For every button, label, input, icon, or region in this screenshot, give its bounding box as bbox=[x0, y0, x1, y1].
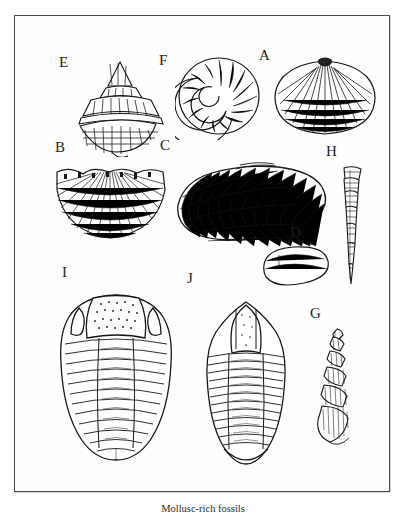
specimen-trilobite-narrow bbox=[198, 299, 294, 467]
specimen-label-I: I bbox=[62, 265, 67, 280]
specimen-label-G: G bbox=[310, 306, 321, 321]
specimen-label-A: A bbox=[259, 48, 270, 63]
specimen-trilobite-large bbox=[57, 292, 175, 462]
specimen-small-oval-shell bbox=[258, 243, 332, 287]
specimen-label-D: D bbox=[290, 225, 301, 240]
specimen-ribbed-brachiopod-shell bbox=[273, 56, 377, 140]
specimen-label-F: F bbox=[159, 53, 168, 68]
specimen-label-C: C bbox=[160, 138, 170, 153]
specimen-planispiral-coiled-shell bbox=[175, 54, 267, 140]
specimen-elongate-bivalve-shell bbox=[168, 159, 328, 249]
specimen-fan-brachiopod-shell bbox=[54, 164, 167, 242]
fossil-plate-frame: E F bbox=[14, 15, 390, 492]
specimen-label-B: B bbox=[55, 140, 65, 155]
specimen-label-H: H bbox=[326, 144, 337, 159]
specimen-label-J: J bbox=[187, 271, 193, 286]
specimen-high-spired-gastropod-shell bbox=[315, 326, 369, 452]
specimen-slender-conical-fossil bbox=[335, 164, 369, 286]
plate-caption: Mollusc-rich fossils bbox=[0, 503, 406, 514]
